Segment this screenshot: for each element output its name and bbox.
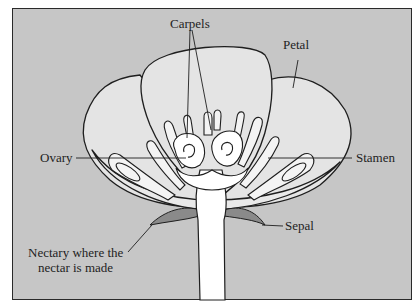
stamen-c2 [214,110,221,130]
label-stamen: Stamen [356,151,395,165]
label-ovary: Ovary [40,151,73,165]
label-nectary-line1: Nectary where the [28,246,123,260]
label-sepal: Sepal [285,219,314,233]
left-sepal [150,208,200,225]
right-sepal [224,208,265,225]
label-petal: Petal [283,38,309,52]
label-nectary-line2: nectar is made [38,261,113,275]
label-carpels: Carpels [170,17,210,31]
